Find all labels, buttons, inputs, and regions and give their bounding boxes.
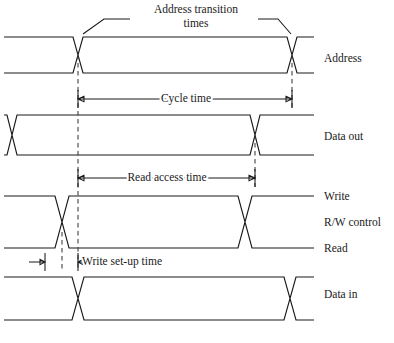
leader-line-left (83, 19, 130, 34)
signal-data-out: Data out (4, 115, 364, 155)
signal-rw-control: R/W control Write Read (4, 190, 381, 254)
signal-label-address: Address (324, 52, 362, 64)
level-label-write: Write (324, 190, 350, 202)
signal-address: Address (4, 37, 362, 73)
write-set-up-time-label: Write set-up time (82, 255, 162, 268)
annotation-address-transition-times: Address transition times (83, 3, 291, 34)
level-label-read: Read (324, 242, 348, 254)
dimension-read-access-time: Read access time (78, 169, 255, 187)
address-waveform (4, 37, 314, 73)
signal-data-in: Data in (4, 277, 358, 320)
write-set-up-time-arrow-line (29, 259, 90, 264)
rw-control-waveform (4, 196, 314, 248)
signal-label-data-out: Data out (324, 130, 364, 142)
annotation-text-line1: Address transition (154, 3, 238, 15)
cycle-time-label: Cycle time (161, 92, 211, 105)
timing-diagram-canvas: Address Data out R/W control Write Read … (0, 0, 394, 343)
leader-line-right (258, 19, 291, 34)
signal-label-rw-control: R/W control (324, 216, 381, 228)
timing-diagram: Address Data out R/W control Write Read … (0, 0, 394, 343)
read-access-time-label: Read access time (127, 171, 206, 183)
dimension-write-set-up-time: Write set-up time (29, 253, 162, 271)
guide-lines-group (62, 55, 292, 271)
annotation-text-line2: times (184, 17, 209, 29)
signal-label-data-in: Data in (324, 288, 358, 300)
data-out-waveform (4, 115, 314, 155)
data-in-waveform (4, 277, 314, 320)
dimension-cycle-time: Cycle time (78, 90, 292, 108)
